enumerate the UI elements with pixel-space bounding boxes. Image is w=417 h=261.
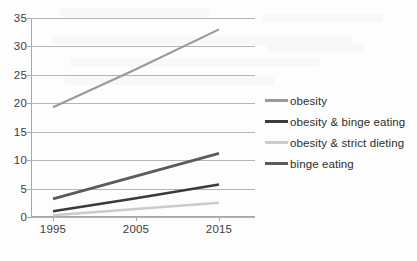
legend-label-obesity-binge-eating: obesity & binge eating <box>290 116 405 128</box>
gridline <box>31 217 255 218</box>
x-axis-tick-label: 1995 <box>40 223 66 235</box>
legend-swatch-obesity-strict-dieting <box>265 141 288 144</box>
y-axis-tick-label: 5 <box>3 183 27 195</box>
scan-artifact <box>60 8 210 17</box>
y-axis-tick-label: 0 <box>3 211 27 223</box>
x-axis-tick <box>136 217 137 221</box>
x-axis-tick <box>219 217 220 221</box>
legend-label-obesity: obesity <box>290 95 327 107</box>
series-lines <box>31 18 255 217</box>
y-axis-tick-label: 10 <box>3 154 27 166</box>
legend-swatch-binge-eating <box>265 162 288 165</box>
y-axis-tick-label: 20 <box>3 97 27 109</box>
y-axis-labels: 05101520253035 <box>0 18 27 217</box>
legend-label-obesity-strict-dieting: obesity & strict dieting <box>290 137 404 149</box>
legend-label-binge-eating: binge eating <box>290 158 354 170</box>
x-axis-tick-label: 2005 <box>123 223 149 235</box>
series-line-obesity <box>53 29 219 107</box>
scan-artifact <box>262 14 382 22</box>
legend-item-binge-eating[interactable]: binge eating <box>265 153 415 174</box>
series-line-obesity-binge-eating <box>53 185 219 212</box>
x-axis-labels: 199520052015 <box>31 223 255 239</box>
y-axis-tick-label: 15 <box>3 126 27 138</box>
x-axis-tick-label: 2015 <box>206 223 232 235</box>
y-axis-tick <box>27 217 31 218</box>
y-axis-tick-label: 35 <box>3 12 27 24</box>
series-line-binge-eating <box>53 153 219 198</box>
legend-item-obesity[interactable]: obesity <box>265 90 415 111</box>
series-line-obesity-strict-dieting <box>53 203 219 216</box>
y-axis-tick-label: 30 <box>3 40 27 52</box>
legend-item-obesity-strict-dieting[interactable]: obesity & strict dieting <box>265 132 415 153</box>
x-axis-tick <box>53 217 54 221</box>
y-axis-tick-label: 25 <box>3 69 27 81</box>
line-chart: 05101520253035 199520052015 obesityobesi… <box>0 0 417 261</box>
legend-swatch-obesity-binge-eating <box>265 120 288 123</box>
legend: obesityobesity & binge eatingobesity & s… <box>265 90 415 174</box>
legend-swatch-obesity <box>265 99 288 102</box>
legend-item-obesity-binge-eating[interactable]: obesity & binge eating <box>265 111 415 132</box>
scan-artifact <box>266 44 366 52</box>
